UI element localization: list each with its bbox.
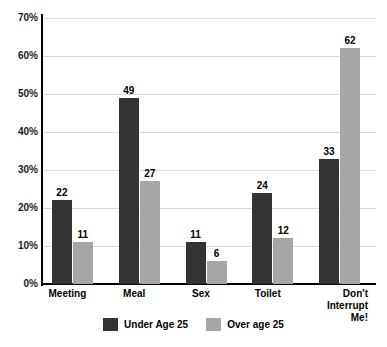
legend-label: Under Age 25 (124, 319, 188, 330)
x-axis-label: Meal (101, 288, 168, 300)
legend-item[interactable]: Under Age 25 (103, 318, 188, 331)
y-axis-tick-label: 60% (0, 51, 38, 61)
y-axis-tick-label: 50% (0, 89, 38, 99)
bar (252, 193, 272, 284)
bar-value-label: 11 (68, 229, 98, 240)
bar-value-label: 22 (47, 187, 77, 198)
y-axis-tick-label: 10% (0, 241, 38, 251)
y-axis-tick-label: 40% (0, 127, 38, 137)
bar-value-label: 12 (268, 225, 298, 236)
bar (73, 242, 93, 284)
bar (319, 159, 339, 284)
bar-value-label: 6 (202, 248, 232, 259)
legend-swatch-icon (103, 318, 118, 331)
legend-item[interactable]: Over age 25 (206, 318, 284, 331)
legend-swatch-icon (206, 318, 221, 331)
bar (119, 98, 139, 284)
bar-value-label: 24 (247, 180, 277, 191)
bar (273, 238, 293, 284)
x-axis-label: Sex (168, 288, 235, 300)
chart-legend: Under Age 25Over age 25 (0, 318, 387, 331)
y-axis-tick-label: 30% (0, 165, 38, 175)
bar (52, 200, 72, 284)
bar-value-label: 62 (335, 35, 365, 46)
x-axis-label: Toilet (234, 288, 301, 300)
bar (140, 181, 160, 284)
bar-value-label: 49 (114, 85, 144, 96)
bar (340, 48, 360, 284)
bar-chart: 0%10%20%30%40%50%60%70% 2211492711624123… (0, 0, 387, 347)
x-axis-category-labels: MeetingMealSexToiletDon't Interrupt Me! (42, 288, 376, 320)
x-axis-label: Meeting (34, 288, 101, 300)
y-axis-tick-label: 70% (0, 13, 38, 23)
bars-layer: 2211492711624123362 (42, 18, 376, 284)
y-axis-tick-label: 20% (0, 203, 38, 213)
bar-value-label: 27 (135, 168, 165, 179)
legend-label: Over age 25 (227, 319, 284, 330)
bar-value-label: 11 (181, 229, 211, 240)
y-axis-tick-label: 0% (0, 279, 38, 289)
bar (207, 261, 227, 284)
